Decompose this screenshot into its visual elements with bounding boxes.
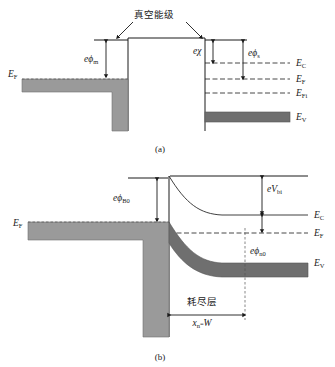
metal-fermi-label-a: EF: [7, 69, 18, 80]
built-in-potential-label: eVbi: [267, 184, 282, 195]
ec-label-b: EC: [313, 210, 324, 221]
electron-affinity-label: eχ: [193, 46, 202, 56]
metal-fermi-label-b: EF: [12, 218, 23, 229]
ev-label-a: EV: [295, 112, 307, 123]
efi-label-a: EFi: [295, 88, 307, 99]
panel-b-tag: (b): [155, 352, 166, 362]
metal-filled-block-b: [28, 222, 169, 337]
barrier-height-label-left: eϕB0: [113, 193, 130, 204]
bulk-potential-label: eϕn0: [250, 246, 266, 257]
ef-label-a: EF: [295, 74, 306, 85]
panel-a: 真空能级 EF eϕm eχ: [7, 9, 307, 154]
vacuum-level-leader-right: [186, 22, 202, 38]
metal-filled-block-a: [22, 79, 128, 131]
panel-b: EF eϕB0 EC EF eVbi eϕn0 EV: [12, 176, 325, 362]
valence-band-block-a: [205, 112, 290, 122]
vacuum-level-label: 真空能级: [134, 9, 174, 20]
ec-label-a: EC: [295, 58, 306, 69]
depletion-layer-label: 耗尽层: [187, 296, 217, 307]
band-diagram-figure: 真空能级 EF eϕm eχ: [0, 0, 335, 367]
ev-label-b: EV: [313, 258, 325, 269]
valence-band-curve-block-b: [169, 222, 308, 277]
panel-a-tag: (a): [155, 144, 165, 154]
semiconductor-workfunction-label: eϕs: [248, 48, 260, 59]
depletion-width-label: xn=W: [191, 318, 212, 329]
ef-label-b: EF: [313, 228, 324, 239]
vacuum-level-leader-left: [117, 22, 133, 38]
metal-workfunction-label: eϕm: [84, 54, 98, 65]
conduction-band-curve-b: [169, 176, 308, 215]
energy-band-diagram-svg: 真空能级 EF eϕm eχ: [0, 0, 335, 367]
